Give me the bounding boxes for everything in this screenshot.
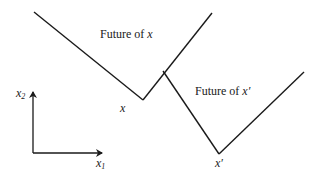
axis-subscript: 2 [21,92,25,101]
axis-x2-label: x2 [16,87,25,101]
x-prime-variable: x′ [242,84,250,98]
future-of-x-label: Future of x [100,28,153,40]
point-x-label: x [120,102,125,114]
future-of-text: Future of [195,84,242,98]
future-of-text: Future of [100,27,147,41]
light-cone-diagram: Future of x Future of x′ x x′ x2 x1 [0,0,319,178]
axis-x1-label: x1 [96,157,105,171]
diagram-lines [0,0,319,178]
axis-subscript: 1 [101,162,105,171]
cone-x-left-arm [34,12,143,100]
x-variable: x [147,27,152,41]
future-of-x-prime-label: Future of x′ [195,85,250,97]
point-x-prime-label: x′ [215,157,223,169]
